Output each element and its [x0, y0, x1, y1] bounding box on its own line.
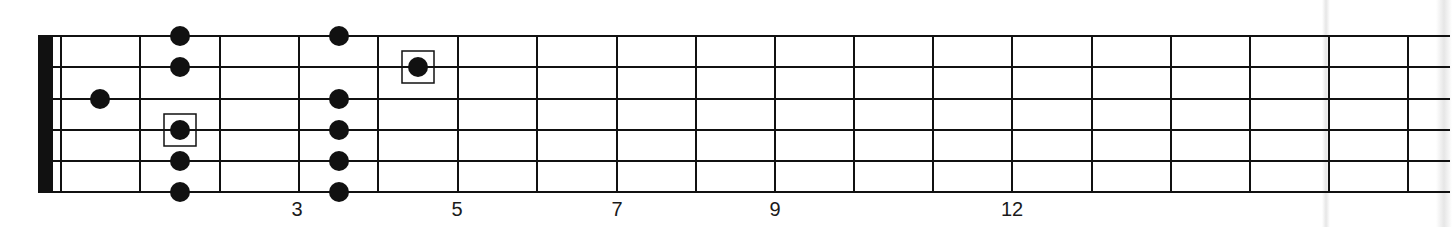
note-dot — [329, 151, 349, 171]
note-dot — [170, 151, 190, 171]
root-note-dot — [170, 120, 190, 140]
fret-label-7: 7 — [611, 197, 622, 221]
note-dot — [170, 182, 190, 202]
note-dot — [170, 57, 190, 77]
strings — [38, 36, 1450, 192]
note-dot — [90, 89, 110, 109]
note-dot — [170, 26, 190, 46]
note-dot — [329, 120, 349, 140]
fret-label-5: 5 — [451, 197, 462, 221]
fret-label-3: 3 — [291, 197, 302, 221]
note-dot — [329, 182, 349, 202]
fret-wires — [140, 36, 1408, 192]
note-dot — [329, 26, 349, 46]
note-markers — [90, 26, 434, 202]
fretboard-diagram — [0, 0, 1452, 227]
note-dot — [329, 89, 349, 109]
fret-label-9: 9 — [769, 197, 780, 221]
nut — [38, 35, 53, 193]
fret-label-12: 12 — [1001, 197, 1023, 221]
root-note-dot — [408, 57, 428, 77]
